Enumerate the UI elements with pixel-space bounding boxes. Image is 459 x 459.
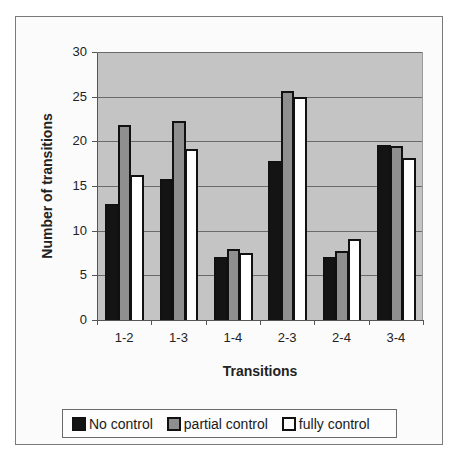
gridline <box>98 275 422 276</box>
gridline <box>98 97 422 98</box>
legend-item-no-control: No control <box>72 416 153 432</box>
bar-no-control-1-2 <box>105 204 119 320</box>
y-tick-label: 0 <box>47 313 87 327</box>
y-tick-label: 30 <box>47 45 87 59</box>
x-tick-label: 3-4 <box>369 330 423 345</box>
y-tick <box>92 186 97 187</box>
x-tick-label: 1-3 <box>151 330 205 345</box>
bar-partial-control-1-3 <box>172 121 186 320</box>
bar-no-control-1-4 <box>214 257 228 320</box>
gridline <box>98 52 422 53</box>
bar-fully-control-1-2 <box>130 175 144 320</box>
bar-no-control-2-4 <box>323 257 337 320</box>
gridline <box>98 231 422 232</box>
legend-label: No control <box>89 416 153 432</box>
x-tick <box>260 320 261 325</box>
bar-fully-control-1-4 <box>239 253 253 320</box>
bar-no-control-1-3 <box>160 179 174 320</box>
x-tick-label: 2-3 <box>260 330 314 345</box>
bar-no-control-3-4 <box>377 145 391 320</box>
x-tick-label: 1-2 <box>97 330 151 345</box>
legend-label: fully control <box>299 416 370 432</box>
gridline <box>98 141 422 142</box>
bar-partial-control-2-4 <box>335 251 349 320</box>
bar-partial-control-2-3 <box>281 91 295 320</box>
y-axis-title: Number of transitions <box>39 113 55 258</box>
bar-partial-control-3-4 <box>390 146 404 320</box>
legend-swatch-fully-control-icon <box>282 417 296 431</box>
x-tick <box>369 320 370 325</box>
legend-item-fully-control: fully control <box>282 416 370 432</box>
x-tick <box>423 320 424 325</box>
plot-area <box>97 52 423 320</box>
bar-no-control-2-3 <box>268 161 282 320</box>
y-tick <box>92 141 97 142</box>
legend-label: partial control <box>184 416 268 432</box>
y-tick <box>92 97 97 98</box>
x-axis-title: Transitions <box>97 363 423 379</box>
legend: No control partial control fully control <box>62 409 397 438</box>
bar-fully-control-1-3 <box>185 149 199 320</box>
y-tick <box>92 52 97 53</box>
y-tick <box>92 231 97 232</box>
bar-partial-control-1-2 <box>118 125 132 320</box>
x-tick <box>151 320 152 325</box>
bar-fully-control-2-3 <box>293 97 307 320</box>
y-tick <box>92 275 97 276</box>
legend-swatch-partial-control-icon <box>167 417 181 431</box>
legend-swatch-no-control-icon <box>72 417 86 431</box>
legend-item-partial-control: partial control <box>167 416 268 432</box>
x-tick <box>97 320 98 325</box>
x-tick-label: 2-4 <box>314 330 368 345</box>
x-tick <box>314 320 315 325</box>
bar-partial-control-1-4 <box>227 249 241 320</box>
bar-fully-control-2-4 <box>348 239 362 320</box>
bar-fully-control-3-4 <box>402 158 416 320</box>
y-tick-label: 25 <box>47 90 87 104</box>
y-tick-label: 5 <box>47 268 87 282</box>
gridline <box>98 186 422 187</box>
x-tick-label: 1-4 <box>206 330 260 345</box>
x-tick <box>206 320 207 325</box>
